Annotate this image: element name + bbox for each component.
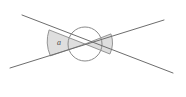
angle-label-a: a	[57, 38, 61, 47]
geometry-figure: a	[0, 0, 186, 97]
intersecting-line-1	[22, 15, 173, 73]
left-angle-wedge	[47, 30, 85, 56]
geometry-canvas: a	[0, 0, 186, 97]
